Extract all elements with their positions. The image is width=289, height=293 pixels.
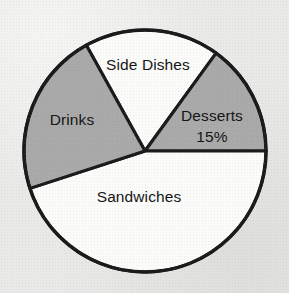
- pie-label-drinks: Drinks: [50, 111, 95, 128]
- pie-chart-svg: Side DishesDesserts15%SandwichesDrinks: [0, 0, 289, 293]
- pie-label-sandwiches: Sandwiches: [97, 188, 182, 205]
- pie-label-desserts: Desserts: [181, 107, 243, 124]
- pie-label-side-dishes: Side Dishes: [106, 56, 190, 73]
- pie-value-desserts: 15%: [196, 128, 227, 145]
- pie-chart-figure: Side DishesDesserts15%SandwichesDrinks: [0, 0, 289, 293]
